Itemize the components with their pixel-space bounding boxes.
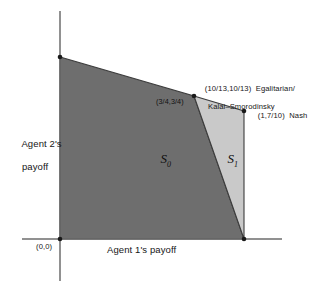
- marker-top-left: [58, 55, 63, 60]
- x-axis-label: Agent 1's payoff: [107, 244, 176, 255]
- kink-point-label: (3/4,3/4): [156, 98, 184, 106]
- y-axis-label-line2: payoff: [22, 161, 48, 172]
- region-s0-subscript: 0: [167, 160, 171, 169]
- marker-origin: [58, 237, 63, 242]
- y-axis-label-line1: Agent 2's: [21, 138, 61, 149]
- nash-coordinates: (1,7/10): [258, 111, 285, 120]
- nash-name: Nash: [289, 111, 307, 120]
- region-s1-label: S1: [214, 136, 238, 185]
- marker-bottom-right: [242, 237, 247, 242]
- egalitarian-coordinates: (10/13,10/13): [205, 84, 251, 93]
- bargaining-set-figure: Agent 2's payoff Agent 1's payoff (0,0) …: [0, 0, 324, 293]
- nash-point-label: (1,7/10) Nash: [249, 103, 307, 130]
- egalitarian-name-line1: Egalitarian/: [256, 84, 295, 93]
- y-axis-label: Agent 2's payoff: [11, 127, 62, 183]
- region-s0-label: S0: [147, 136, 171, 185]
- region-s1-subscript: 1: [234, 160, 238, 169]
- origin-label: (0,0): [36, 243, 52, 252]
